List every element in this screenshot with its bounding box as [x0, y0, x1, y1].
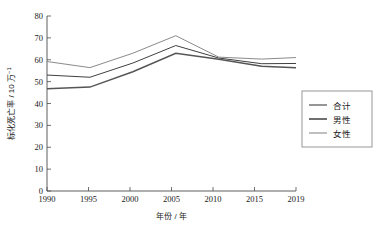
x-tick-label-2005: 2005 — [163, 194, 180, 204]
y-tick-label-30: 30 — [35, 120, 44, 130]
y-tick-label-80: 80 — [35, 11, 44, 21]
y-axis-title: 标化死亡率 / 10 万−1 — [6, 67, 16, 140]
y-axis-ticks — [47, 16, 51, 191]
x-tick-label-1990: 1990 — [39, 194, 56, 204]
svg-text:标化死亡率 / 10 万−1: 标化死亡率 / 10 万−1 — [6, 67, 16, 140]
y-tick-label-60: 60 — [35, 55, 44, 65]
legend-label-total: 合计 — [333, 101, 351, 111]
x-tick-label-2015: 2015 — [246, 194, 263, 204]
legend-label-male: 男性 — [333, 115, 351, 125]
y-axis-title-sup: −1 — [6, 67, 12, 75]
y-tick-label-10: 10 — [35, 164, 44, 174]
x-tick-label-2000: 2000 — [122, 194, 139, 204]
y-tick-label-70: 70 — [35, 33, 44, 43]
line-chart: 0 10 20 30 40 50 60 70 80 1990 1995 2000… — [0, 0, 380, 234]
x-axis-ticks — [47, 187, 296, 191]
series-line-合计 — [47, 46, 296, 78]
chart-figure: 0 10 20 30 40 50 60 70 80 1990 1995 2000… — [0, 0, 380, 234]
x-tick-label-1995: 1995 — [80, 194, 97, 204]
x-axis-title: 年份 / 年 — [156, 211, 187, 221]
y-tick-label-50: 50 — [35, 77, 44, 87]
y-tick-label-20: 20 — [35, 142, 44, 152]
y-tick-label-40: 40 — [35, 99, 44, 109]
y-axis-title-main: 标化死亡率 / 10 万 — [6, 74, 16, 140]
legend-label-female: 女性 — [333, 129, 351, 139]
legend: 合计 男性 女性 — [302, 91, 372, 147]
x-tick-label-2019: 2019 — [288, 194, 305, 204]
series-lines — [47, 36, 296, 89]
x-tick-label-2010: 2010 — [205, 194, 222, 204]
